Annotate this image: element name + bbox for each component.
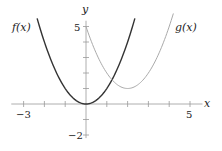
x-min-label: −3 <box>16 109 31 120</box>
y-max-label: 5 <box>74 22 80 33</box>
f-label: f(x) <box>11 21 31 34</box>
g-label: g(x) <box>175 21 197 34</box>
y-axis-label: y <box>81 3 89 16</box>
y-min-label: −2 <box>68 130 83 141</box>
axes <box>11 21 202 138</box>
g-curve <box>86 13 173 88</box>
curves <box>37 13 173 104</box>
x-axis-label: x <box>204 97 211 110</box>
function-plot: y x −3 5 5 −2 f(x) g(x) <box>0 0 222 151</box>
x-max-label: 5 <box>186 109 192 120</box>
